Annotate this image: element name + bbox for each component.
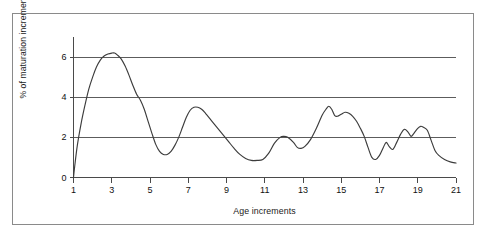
x-tick-label-1: 1: [71, 185, 76, 195]
x-tick-label-3: 3: [109, 185, 114, 195]
tick-marks: [70, 57, 457, 182]
x-tick-label-11: 11: [260, 185, 269, 195]
gridlines: [74, 57, 457, 137]
x-tick-label-15: 15: [336, 185, 346, 195]
x-tick-label-7: 7: [186, 185, 191, 195]
x-axis-title: Age increments: [73, 206, 456, 216]
chart-figure: % of maturation increments Age increment…: [0, 0, 490, 238]
axes: [74, 37, 457, 178]
chart-plot-area: [0, 0, 490, 238]
y-tick-label-6: 6: [61, 52, 66, 62]
x-tick-label-17: 17: [374, 185, 384, 195]
x-tick-label-19: 19: [413, 185, 423, 195]
y-axis-title: % of maturation increments: [18, 0, 28, 120]
y-tick-label-2: 2: [61, 132, 66, 142]
data-line-maturation-increments: [74, 53, 457, 178]
x-tick-label-9: 9: [224, 185, 229, 195]
x-tick-label-13: 13: [298, 185, 308, 195]
y-tick-label-4: 4: [61, 92, 66, 102]
x-tick-label-21: 21: [451, 185, 461, 195]
y-tick-label-0: 0: [61, 173, 66, 183]
x-tick-label-5: 5: [147, 185, 152, 195]
